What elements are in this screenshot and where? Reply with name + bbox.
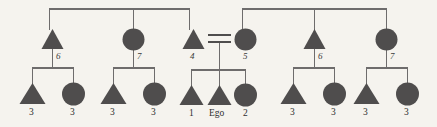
pedigree-diagram: 6 7 4 5 6 7 3 3 3 3 1 Ego 2 3 3 3 3 xyxy=(0,0,437,127)
label-g3-8: 3 xyxy=(290,108,295,118)
symbol-male-g3-ego xyxy=(208,85,232,105)
symbol-female-g3-11 xyxy=(396,83,419,106)
symbol-male-g3-8 xyxy=(281,83,307,104)
symbol-male-g3-3 xyxy=(101,83,127,104)
label-g2-2: 7 xyxy=(137,52,142,61)
label-g3-7: 2 xyxy=(243,109,248,119)
label-g3-2: 3 xyxy=(70,108,75,118)
symbol-female-g3-9 xyxy=(323,83,346,106)
label-g3-11: 3 xyxy=(404,108,409,118)
symbol-female-g2-4 xyxy=(235,29,257,51)
symbol-female-g3-4 xyxy=(143,83,166,106)
label-g2-6: 7 xyxy=(390,52,395,61)
symbol-male-g2-3 xyxy=(183,29,205,49)
label-g2-5: 6 xyxy=(318,52,323,61)
symbol-male-g3-5 xyxy=(180,85,204,105)
label-g3-1: 3 xyxy=(29,108,34,118)
label-g2-1: 6 xyxy=(56,52,61,61)
label-g2-4: 5 xyxy=(243,52,248,61)
label-g3-ego: Ego xyxy=(209,109,224,119)
symbol-male-g3-1 xyxy=(20,83,46,104)
marriage-equals-sign xyxy=(208,35,231,42)
label-g3-5: 1 xyxy=(189,109,194,119)
symbol-female-g3-2 xyxy=(62,83,85,106)
label-g3-4: 3 xyxy=(151,108,156,118)
symbol-male-g2-1 xyxy=(42,29,64,49)
generation-3-symbols xyxy=(20,83,420,107)
symbol-female-g2-6 xyxy=(376,29,398,51)
label-g3-10: 3 xyxy=(363,108,368,118)
symbol-male-g2-5 xyxy=(304,29,326,49)
label-g3-9: 3 xyxy=(331,108,336,118)
symbol-female-g3-7 xyxy=(234,84,257,107)
generation-3-lines xyxy=(32,68,408,86)
symbol-male-g3-10 xyxy=(354,83,380,104)
generation-1-lines xyxy=(49,9,387,30)
symbol-female-g2-2 xyxy=(123,29,145,51)
label-g3-3: 3 xyxy=(110,108,115,118)
label-g2-3: 4 xyxy=(190,52,195,61)
